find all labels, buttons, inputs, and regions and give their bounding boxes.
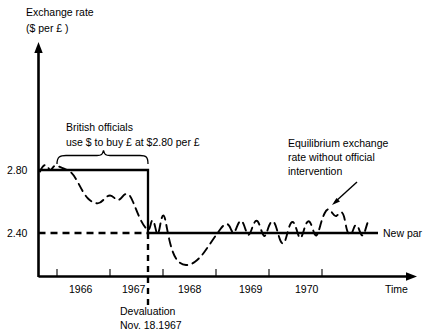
exchange-rate-chart-svg: Exchange rate ($ per £ ) 1966 1967 1968 … <box>0 0 435 332</box>
x-tick-label-1969: 1969 <box>239 283 263 295</box>
y-tick-label-280: 2.80 <box>7 164 28 176</box>
devaluation-label-line1: Devaluation <box>120 305 176 317</box>
brace-label-line2: use $ to buy £ at $2.80 per £ <box>66 136 200 148</box>
y-axis-title-line2: ($ per £ ) <box>26 22 69 34</box>
y-axis-title-line1: Exchange rate <box>26 6 94 18</box>
brace-label-line1: British officials <box>66 121 133 133</box>
y-tick-label-240: 2.40 <box>7 227 28 239</box>
new-par-label: New par <box>383 227 423 239</box>
intervention-brace <box>57 151 148 165</box>
x-tick-label-1966: 1966 <box>69 283 93 295</box>
equilibrium-exchange-rate-curve <box>40 165 369 265</box>
equilibrium-annotation-arrow <box>335 182 357 202</box>
x-axis-label: Time <box>385 283 408 295</box>
arrow-label-line1: Equilibrium exchange <box>288 137 389 149</box>
x-tick-label-1968: 1968 <box>178 283 202 295</box>
x-tick-label-1970: 1970 <box>295 283 319 295</box>
x-axis-ticks <box>57 269 322 276</box>
y-axis-arrow-head <box>34 42 42 53</box>
official-pegged-rate-line <box>39 170 379 233</box>
arrow-label-line3: intervention <box>288 165 342 177</box>
devaluation-label-line2: Nov. 18.1967 <box>120 319 182 331</box>
x-tick-label-1967: 1967 <box>122 283 146 295</box>
arrow-label-line2: rate without official <box>288 151 375 163</box>
chart-figure: Exchange rate ($ per £ ) 1966 1967 1968 … <box>0 0 435 332</box>
x-axis-arrow-head <box>406 272 417 280</box>
